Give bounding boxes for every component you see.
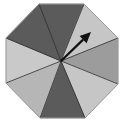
- spinner-diagram: [0, 0, 124, 128]
- octagon-spinner: [0, 0, 124, 128]
